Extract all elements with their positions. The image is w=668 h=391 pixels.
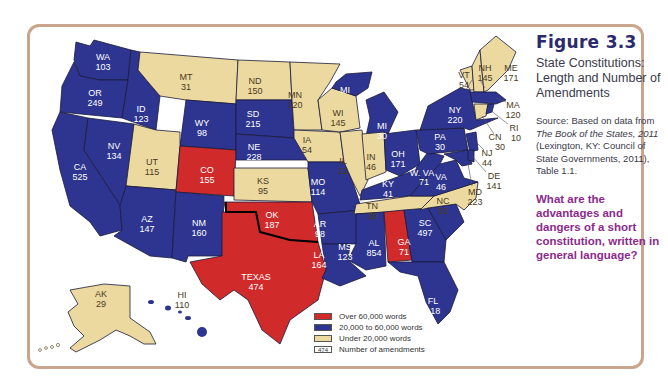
aleutian-islands [39,343,60,351]
svg-text:VA46: VA46 [435,172,446,192]
svg-text:NM160: NM160 [191,218,206,238]
svg-text:NC35: NC35 [437,196,450,216]
svg-text:OR249: OR249 [87,88,102,108]
svg-text:NV134: NV134 [106,141,121,161]
svg-text:MD223: MD223 [467,187,482,207]
svg-text:KY41: KY41 [382,179,394,199]
svg-text:IL12: IL12 [338,156,348,176]
svg-text:MN120: MN120 [287,90,302,110]
legend-item-over-60000: Over 60,000 words [314,311,425,321]
svg-text:MS123: MS123 [337,242,352,262]
svg-text:AZ147: AZ147 [139,214,154,234]
figure-source: Source: Based on data from The Book of t… [536,115,666,178]
svg-text:HI110: HI110 [175,290,189,310]
svg-text:MA120: MA120 [505,100,520,120]
svg-text:MT31: MT31 [180,72,193,92]
discussion-question: What are the advantages and dangers of a… [536,192,666,262]
legend-item-20000-60000: 20,000 to 60,000 words [314,322,425,332]
svg-text:TN39: TN39 [366,201,378,221]
svg-text:NH145: NH145 [477,63,492,83]
svg-text:RI10: RI10 [510,123,522,143]
svg-text:AL854: AL854 [366,238,381,258]
svg-text:ND150: ND150 [247,76,262,96]
svg-text:VT54: VT54 [458,70,470,90]
svg-text:SC497: SC497 [417,218,432,238]
svg-text:IA54: IA54 [302,135,312,155]
map-legend: Over 60,000 words 20,000 to 60,000 words… [314,311,425,355]
svg-text:WI145: WI145 [330,108,345,128]
legend-amendments-box: 474 [314,346,332,353]
svg-text:NJ44: NJ44 [482,148,493,168]
svg-text:LA164: LA164 [311,250,326,270]
svg-text:NY220: NY220 [447,105,462,125]
legend-swatch-red [314,313,332,320]
figure-caption: Figure 3.3 State Constitutions: Length a… [536,32,666,262]
svg-text:AK29: AK29 [95,289,107,309]
legend-item-amendments: 474 Number of amendments [314,344,425,354]
svg-text:MO114: MO114 [311,177,326,197]
svg-text:NE228: NE228 [246,142,261,162]
svg-text:GA71: GA71 [397,237,410,257]
svg-text:FL118: FL118 [426,296,440,316]
state-CN [474,104,488,120]
legend-swatch-blue [314,324,332,331]
state-ND [236,60,292,100]
svg-text:WA103: WA103 [95,52,110,72]
svg-text:DE141: DE141 [486,171,501,191]
svg-text:AR98: AR98 [314,219,327,239]
figure-title: Figure 3.3 [536,32,666,52]
state-DE [468,150,474,162]
svg-text:PA30: PA30 [434,132,445,152]
legend-swatch-tan [314,335,332,342]
legend-item-under-20000: Under 20,000 words [314,333,425,343]
svg-text:ME171: ME171 [503,63,518,83]
svg-text:CO155: CO155 [199,165,214,185]
svg-text:OK187: OK187 [264,210,279,230]
svg-text:CA525: CA525 [72,162,87,182]
state-AK [68,284,156,352]
svg-text:MI: MI [340,85,350,95]
svg-text:UT115: UT115 [145,157,159,177]
svg-text:MI30: MI30 [377,121,387,141]
figure-subtitle: State Constitutions: Length and Number o… [536,56,666,101]
svg-text:KS95: KS95 [257,176,269,196]
state-KS [234,168,312,202]
state-MA [470,92,506,104]
svg-text:SD215: SD215 [245,109,260,129]
svg-text:OH171: OH171 [390,149,405,169]
svg-text:IN46: IN46 [366,152,376,172]
